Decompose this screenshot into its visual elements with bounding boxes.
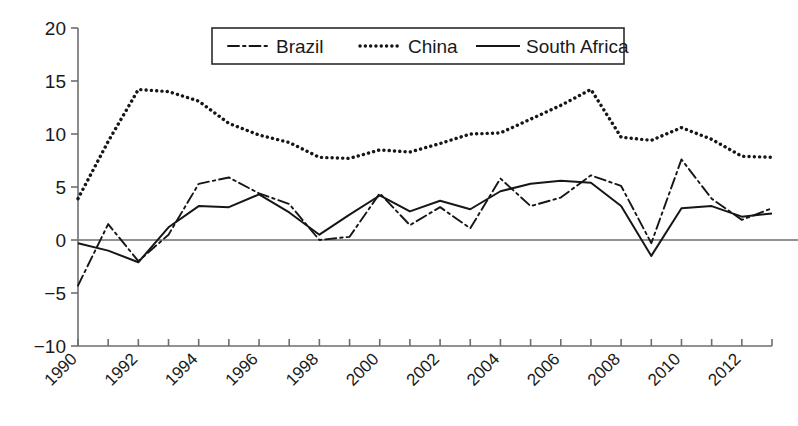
data-series-group: [78, 89, 772, 285]
y-axis-tick-label: 15: [45, 71, 66, 92]
y-axis-tick-label: 20: [45, 18, 66, 39]
x-axis-tick-label: 2004: [463, 349, 503, 389]
x-axis-tick-label: 1998: [282, 349, 322, 389]
series-line-south-africa: [78, 181, 772, 263]
x-axis-tick-label: 2006: [523, 349, 563, 389]
legend-label: Brazil: [276, 36, 324, 57]
y-axis-tick-label: 0: [55, 230, 66, 251]
x-axis-tick-label: 2002: [403, 349, 443, 389]
series-line-china: [78, 89, 772, 198]
y-axis-tick-label: −5: [44, 283, 66, 304]
x-axis-tick-label: 2012: [704, 349, 744, 389]
y-axis-tick-label: −10: [34, 336, 66, 357]
chart-legend: BrazilChinaSouth Africa: [212, 28, 629, 64]
legend-label: China: [408, 36, 458, 57]
x-axis-tick-label: 1992: [101, 349, 141, 389]
x-axis-tick-label: 2008: [584, 349, 624, 389]
x-axis-tick-label: 1994: [161, 349, 201, 389]
chart-container: 20151050−5−10 19901992199419961998200020…: [0, 0, 798, 426]
y-axis-tick-label: 5: [55, 177, 66, 198]
x-axis-tick-label: 2010: [644, 349, 684, 389]
series-line-brazil: [78, 159, 772, 285]
x-axis-tick-label: 1996: [222, 349, 262, 389]
legend-label: South Africa: [526, 36, 629, 57]
x-axis: 1990199219941996199820002002200420062008…: [41, 339, 772, 390]
x-axis-tick-label: 2000: [342, 349, 382, 389]
line-chart: 20151050−5−10 19901992199419961998200020…: [0, 0, 798, 426]
y-axis: 20151050−5−10: [34, 18, 78, 357]
y-axis-tick-label: 10: [45, 124, 66, 145]
